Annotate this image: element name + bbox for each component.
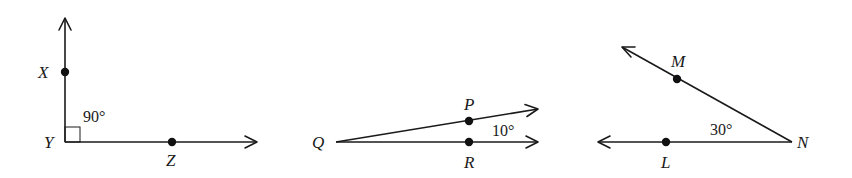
point-l [662,138,670,146]
angle-measure-30: 30° [710,121,732,138]
point-x [61,68,69,76]
right-angle-marker [65,127,80,142]
ray-nm [622,47,792,142]
point-p [465,117,473,125]
label-l: L [660,153,670,172]
arrowhead-left-icon [622,47,635,57]
label-y: Y [44,133,55,152]
label-n: N [796,133,810,152]
angle-diagram: X Y Z 90° Q P R 10° N M [0,0,852,178]
angle-measure-90: 90° [83,108,105,125]
point-r [465,138,473,146]
label-m: M [670,52,686,71]
point-m [673,75,681,83]
figure-angle-xyz: X Y Z 90° [37,18,257,170]
figure-angle-mnl: N M L 30° [598,47,810,172]
label-p: P [463,95,474,114]
figure-angle-pqr: Q P R 10° [312,95,538,172]
label-z: Z [166,151,176,170]
label-r: R [463,153,475,172]
point-z [168,138,176,146]
label-q: Q [312,133,324,152]
angle-measure-10: 10° [492,122,514,139]
label-x: X [37,63,49,82]
